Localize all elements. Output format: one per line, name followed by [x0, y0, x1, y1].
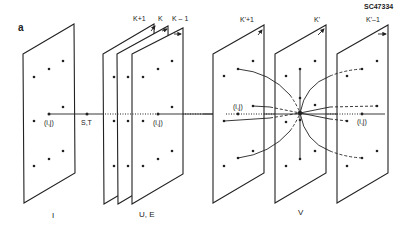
label-K-prime: K' — [314, 16, 320, 23]
label-K-prime-plus-1: K'+1 — [240, 16, 254, 23]
group-label-UE: U, E — [139, 210, 155, 219]
point-ij-I — [48, 113, 51, 116]
group-label-V: V — [298, 208, 304, 217]
label-st: S,T — [81, 119, 93, 126]
figure-id: SC47334 — [364, 3, 393, 10]
point-ij-V-left — [237, 113, 240, 116]
label-ij-UE: (i,j) — [153, 119, 163, 127]
point-ij-V-right — [361, 113, 364, 116]
group-label-I: I — [52, 211, 54, 220]
label-ij-I: (i,j) — [44, 119, 54, 127]
grid-stencil-diagram: a SC47334 (i,j) S,T I — [0, 0, 412, 230]
label-K: K — [158, 15, 163, 22]
label-ij-V-left: (i,j) — [233, 103, 243, 111]
label-K-plus-1: K+1 — [133, 15, 146, 22]
label-K-prime-minus-1: K'–1 — [366, 16, 380, 23]
point-st — [86, 113, 89, 116]
label-K-minus-1: K – 1 — [172, 15, 188, 22]
center-point — [298, 111, 302, 115]
plane-K-minus-1 — [132, 28, 183, 204]
panel-letter: a — [18, 22, 24, 33]
label-ij-V-right: (i,j) — [357, 118, 367, 126]
point-ij-UE — [157, 113, 160, 116]
